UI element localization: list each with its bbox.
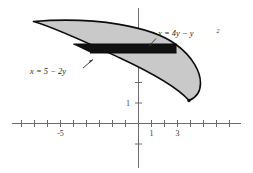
x-tick-label-neg5: -5 [57, 129, 64, 138]
representative-strip-group [74, 44, 177, 53]
figure-canvas: x = 4y − y 2 x = 5 − 2y -5 1 3 1 [0, 0, 253, 173]
representative-strip [74, 45, 177, 53]
region-vertex-point [187, 99, 190, 102]
y-tick-label-1: 1 [126, 99, 130, 108]
line-label-text: x = 5 − 2y [29, 66, 66, 76]
x-tick-label-3: 3 [176, 129, 180, 138]
x-tick-label-1: 1 [150, 129, 154, 138]
parabola-label-text: x = 4y − y [157, 28, 194, 38]
annotation-line: x = 5 − 2y [29, 60, 93, 76]
tick-labels-group: -5 1 3 1 [57, 99, 179, 138]
parabola-label-exponent: 2 [217, 28, 220, 34]
plot-svg: x = 4y − y 2 x = 5 − 2y -5 1 3 1 [0, 0, 253, 173]
